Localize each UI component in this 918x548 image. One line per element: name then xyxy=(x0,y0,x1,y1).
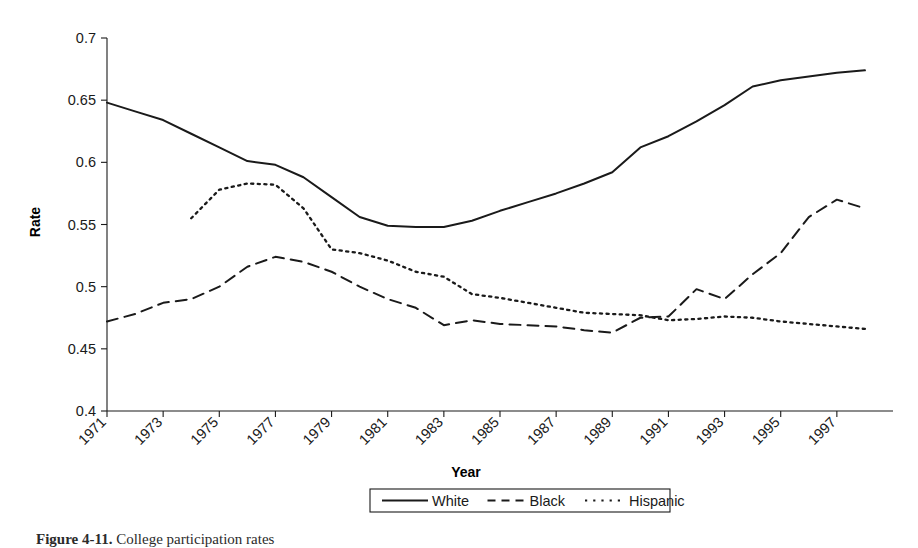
caption-text: College participation rates xyxy=(116,531,274,547)
data-series-group xyxy=(107,70,865,332)
caption-figure-number: Figure 4-11. xyxy=(36,531,112,547)
y-axis-ticks xyxy=(101,38,107,411)
legend-label-black[interactable]: Black xyxy=(530,493,566,509)
y-axis-tick-labels: 0.70.650.60.550.50.450.4 xyxy=(68,30,96,419)
chart-legend: WhiteBlackHispanic xyxy=(370,489,685,512)
x-tick-label: 1997 xyxy=(805,414,839,448)
figure-caption: Figure 4-11. College participation rates xyxy=(36,531,896,548)
y-tick-label: 0.45 xyxy=(68,341,96,357)
legend-label-hispanic[interactable]: Hispanic xyxy=(629,493,685,509)
y-tick-label: 0.4 xyxy=(76,403,96,419)
y-tick-label: 0.6 xyxy=(76,154,96,170)
y-tick-label: 0.5 xyxy=(76,279,96,295)
x-tick-label: 1977 xyxy=(243,414,277,448)
y-axis-title: Rate xyxy=(27,207,43,238)
x-tick-label: 1979 xyxy=(300,414,334,448)
x-tick-label: 1981 xyxy=(356,414,390,448)
y-tick-label: 0.55 xyxy=(68,217,96,233)
x-tick-label: 1985 xyxy=(468,414,502,448)
x-tick-label: 1987 xyxy=(524,414,558,448)
series-line-white xyxy=(107,70,865,227)
x-axis-title: Year xyxy=(451,464,481,480)
series-line-hispanic xyxy=(191,183,865,328)
x-tick-label: 1989 xyxy=(580,414,614,448)
series-line-black xyxy=(107,200,865,333)
legend-label-white[interactable]: White xyxy=(432,493,469,509)
x-tick-label: 1991 xyxy=(636,414,670,448)
x-axis-tick-labels: 1971197319751977197919811983198519871989… xyxy=(75,414,839,448)
y-tick-label: 0.65 xyxy=(68,92,96,108)
x-tick-label: 1993 xyxy=(693,414,727,448)
x-tick-label: 1995 xyxy=(749,414,783,448)
x-tick-label: 1973 xyxy=(131,414,165,448)
x-axis-ticks xyxy=(107,411,837,417)
x-tick-label: 1975 xyxy=(187,414,221,448)
y-tick-label: 0.7 xyxy=(76,30,96,46)
x-tick-label: 1983 xyxy=(412,414,446,448)
